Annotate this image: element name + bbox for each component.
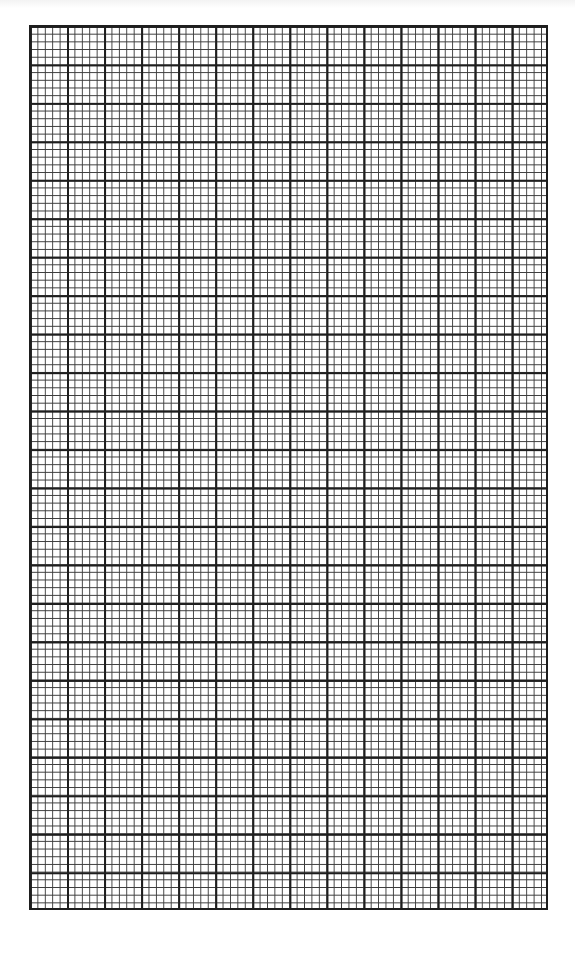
graph-paper-grid — [29, 25, 548, 910]
scan-edge-artifact — [0, 0, 575, 8]
